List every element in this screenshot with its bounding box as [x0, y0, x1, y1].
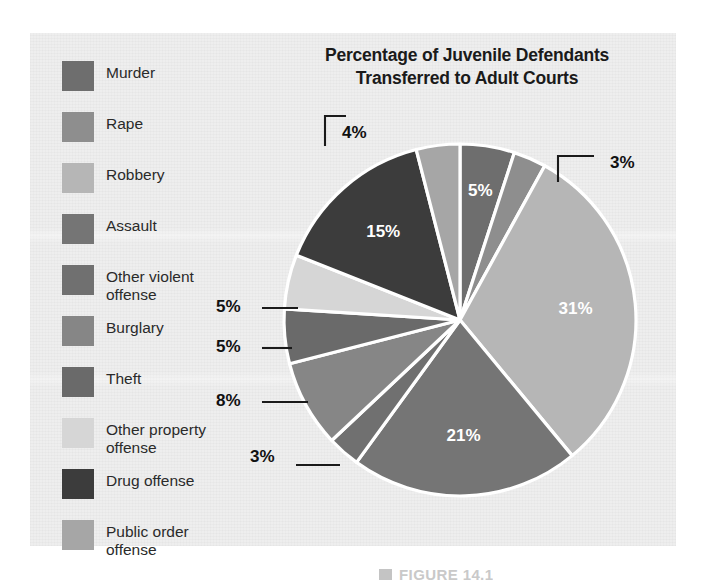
- legend-item-label: Assault: [106, 213, 157, 235]
- legend-swatch-public-order-offense: [62, 520, 94, 550]
- pie-callout-value-label: 5%: [216, 337, 241, 356]
- legend-item: Other violent offense: [62, 264, 237, 315]
- legend-item: Public order offense: [62, 519, 237, 570]
- legend-item-label: Other violent offense: [106, 264, 194, 305]
- figure-caption-text: FIGURE 14.1: [399, 566, 493, 583]
- legend-item-label: Theft: [106, 366, 141, 388]
- pie-chart: 5%31%21%15% 3%3%8%5%5%4%: [280, 140, 640, 500]
- pie-callout-value-label: 5%: [216, 297, 241, 316]
- chart-title: Percentage of Juvenile Defendants Transf…: [262, 44, 672, 91]
- legend-item: Robbery: [62, 162, 237, 213]
- pie-callout-value-label: 8%: [216, 391, 241, 410]
- pie-slice-value-label: 21%: [447, 426, 481, 445]
- legend-item: Theft: [62, 366, 237, 417]
- legend-item-label: Public order offense: [106, 519, 189, 560]
- legend-swatch-rape: [62, 112, 94, 142]
- legend-item: Burglary: [62, 315, 237, 366]
- pie-chart-svg: 5%31%21%15% 3%3%8%5%5%4%: [280, 140, 640, 500]
- chart-title-line-2: Transferred to Adult Courts: [262, 67, 672, 90]
- legend-swatch-theft: [62, 367, 94, 397]
- pie-slice-value-label: 31%: [559, 299, 593, 318]
- chart-legend: MurderRapeRobberyAssaultOther violent of…: [62, 60, 237, 570]
- legend-item: Assault: [62, 213, 237, 264]
- legend-swatch-robbery: [62, 163, 94, 193]
- legend-item: Drug offense: [62, 468, 237, 519]
- legend-item-label: Murder: [106, 60, 155, 82]
- legend-item-label: Burglary: [106, 315, 164, 337]
- pie-slice-value-label: 5%: [468, 181, 493, 200]
- legend-swatch-assault: [62, 214, 94, 244]
- legend-swatch-murder: [62, 61, 94, 91]
- pie-callout-value-label: 3%: [610, 153, 635, 172]
- legend-swatch-other-property-offense: [62, 418, 94, 448]
- chart-title-line-1: Percentage of Juvenile Defendants: [262, 44, 672, 67]
- legend-swatch-burglary: [62, 316, 94, 346]
- figure-caption: FIGURE 14.1: [379, 566, 493, 583]
- legend-swatch-other-violent-offense: [62, 265, 94, 295]
- legend-item-label: Rape: [106, 111, 143, 133]
- legend-item-label: Robbery: [106, 162, 165, 184]
- pie-callout-value-label: 4%: [342, 123, 367, 142]
- legend-item-label: Other property offense: [106, 417, 206, 458]
- legend-item: Rape: [62, 111, 237, 162]
- legend-item: Murder: [62, 60, 237, 111]
- legend-item-label: Drug offense: [106, 468, 194, 490]
- figure-root: Percentage of Juvenile Defendants Transf…: [0, 0, 701, 583]
- pie-callout-value-label: 3%: [250, 447, 275, 466]
- legend-item: Other property offense: [62, 417, 237, 468]
- figure-marker-icon: [379, 569, 392, 580]
- legend-swatch-drug-offense: [62, 469, 94, 499]
- pie-slice-value-label: 15%: [366, 222, 400, 241]
